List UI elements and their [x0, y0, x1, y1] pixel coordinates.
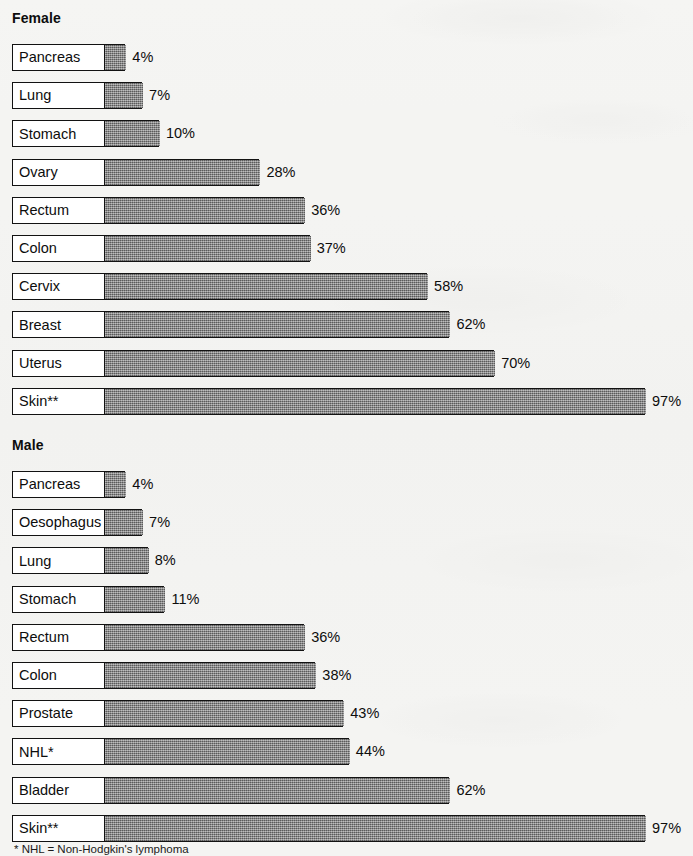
bar-value-label: 28%: [266, 159, 295, 186]
bar-value-label: 36%: [311, 624, 340, 651]
bar-row: Lung: [12, 82, 142, 109]
bar-fill: [104, 587, 165, 612]
bar-row: Ovary: [12, 159, 259, 186]
bar-row: Uterus: [12, 350, 494, 377]
bar-category-label: Cervix: [19, 279, 60, 294]
bar-value-label: 10%: [166, 120, 195, 147]
section-heading-male: Male: [12, 437, 44, 453]
bar-row: Skin**: [12, 388, 645, 415]
bar-category-label: Bladder: [19, 783, 69, 798]
bar-row: Bladder: [12, 777, 449, 804]
bar-label-cell: Pancreas: [13, 45, 104, 70]
bar-value-label: 43%: [350, 700, 379, 727]
bar-fill: [104, 701, 344, 726]
bar-fill: [104, 198, 305, 223]
bar-label-cell: NHL*: [13, 739, 104, 764]
bar-category-label: Rectum: [19, 630, 69, 645]
bar-fill: [104, 510, 143, 535]
bar-category-label: Uterus: [19, 356, 62, 371]
bar-value-label: 97%: [652, 815, 681, 842]
bar-value-label: 8%: [155, 547, 176, 574]
bar-category-label: Rectum: [19, 203, 69, 218]
bar-label-cell: Oesophagus: [13, 510, 104, 535]
bar-fill: [104, 663, 316, 688]
bar-label-cell: Colon: [13, 236, 104, 261]
bar-fill: [104, 389, 646, 414]
bar-category-label: NHL*: [19, 745, 54, 760]
bar-row: NHL*: [12, 738, 349, 765]
bar-label-cell: Skin**: [13, 389, 104, 414]
bar-label-cell: Uterus: [13, 351, 104, 376]
bar-label-cell: Stomach: [13, 121, 104, 146]
survival-rate-bar-chart: Female PancreasLungStomachOvaryRectumCol…: [0, 0, 693, 856]
bar-category-label: Lung: [19, 88, 51, 103]
bar-row: Prostate: [12, 700, 343, 727]
bar-fill: [104, 625, 305, 650]
bar-fill: [104, 351, 495, 376]
bar-fill: [104, 548, 149, 573]
bar-category-label: Colon: [19, 668, 57, 683]
bar-row: Rectum: [12, 197, 304, 224]
bar-label-cell: Skin**: [13, 816, 104, 841]
bar-category-label: Oesophagus: [19, 515, 101, 530]
bar-category-label: Colon: [19, 241, 57, 256]
bar-label-cell: Bladder: [13, 778, 104, 803]
bar-label-cell: Ovary: [13, 160, 104, 185]
bar-value-label: 36%: [311, 197, 340, 224]
bar-fill: [104, 45, 126, 70]
bar-value-label: 58%: [434, 273, 463, 300]
bar-fill: [104, 274, 428, 299]
bar-fill: [104, 121, 160, 146]
bar-row: Skin**: [12, 815, 645, 842]
bar-label-cell: Lung: [13, 548, 104, 573]
section-heading-female: Female: [12, 10, 61, 26]
bar-fill: [104, 739, 350, 764]
bar-value-label: 38%: [322, 662, 351, 689]
bar-category-label: Breast: [19, 318, 61, 333]
bar-fill: [104, 160, 260, 185]
bar-fill: [104, 236, 311, 261]
bar-fill: [104, 83, 143, 108]
bar-label-cell: Stomach: [13, 587, 104, 612]
bar-category-label: Stomach: [19, 592, 76, 607]
bar-row: Pancreas: [12, 471, 125, 498]
bar-value-label: 11%: [171, 586, 199, 613]
bar-fill: [104, 816, 646, 841]
bar-label-cell: Pancreas: [13, 472, 104, 497]
bar-label-cell: Lung: [13, 83, 104, 108]
bar-fill: [104, 778, 450, 803]
bar-label-cell: Breast: [13, 312, 104, 337]
bar-row: Stomach: [12, 586, 164, 613]
bar-category-label: Prostate: [19, 706, 73, 721]
bar-value-label: 7%: [149, 509, 170, 536]
bar-value-label: 62%: [456, 311, 485, 338]
bar-value-label: 4%: [132, 44, 153, 71]
bar-category-label: Skin**: [19, 821, 59, 836]
bar-label-cell: Rectum: [13, 198, 104, 223]
bar-fill: [104, 472, 126, 497]
bar-category-label: Ovary: [19, 165, 58, 180]
bar-row: Colon: [12, 235, 310, 262]
bar-value-label: 97%: [652, 388, 681, 415]
bar-value-label: 37%: [317, 235, 346, 262]
bar-category-label: Pancreas: [19, 50, 80, 65]
bar-label-cell: Cervix: [13, 274, 104, 299]
bar-row: Oesophagus: [12, 509, 142, 536]
bar-row: Stomach: [12, 120, 159, 147]
bar-row: Colon: [12, 662, 315, 689]
bar-row: Pancreas: [12, 44, 125, 71]
bar-value-label: 4%: [132, 471, 153, 498]
bar-row: Lung: [12, 547, 148, 574]
bar-value-label: 70%: [501, 350, 530, 377]
bar-category-label: Stomach: [19, 127, 76, 142]
bar-category-label: Lung: [19, 554, 51, 569]
bar-label-cell: Rectum: [13, 625, 104, 650]
bar-value-label: 7%: [149, 82, 170, 109]
bar-label-cell: Colon: [13, 663, 104, 688]
bar-label-cell: Prostate: [13, 701, 104, 726]
bar-category-label: Pancreas: [19, 477, 80, 492]
bar-fill: [104, 312, 450, 337]
bar-row: Rectum: [12, 624, 304, 651]
bar-category-label: Skin**: [19, 394, 59, 409]
bar-row: Cervix: [12, 273, 427, 300]
